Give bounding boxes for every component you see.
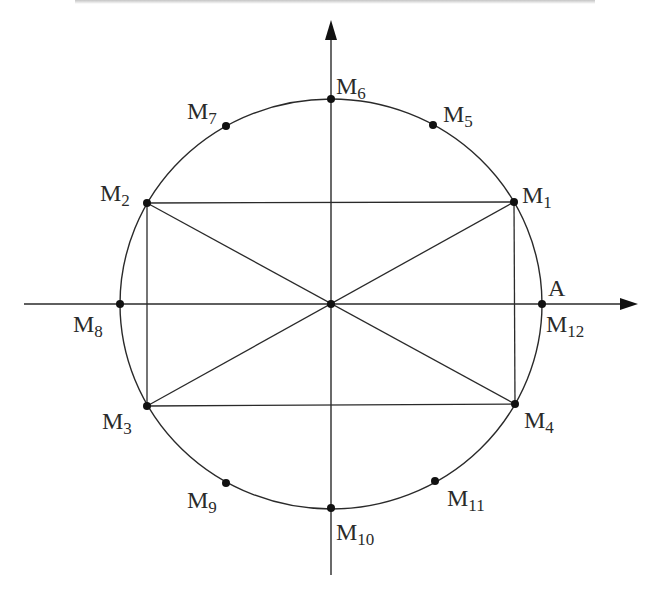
label-base: M [522,182,543,208]
label-m2: M2 [100,181,130,209]
label-base: M [187,487,208,513]
point-m9 [222,479,230,487]
segment-m1-m2 [147,202,514,203]
label-base: M [336,519,357,545]
point-m3 [143,402,151,410]
label-m8: M8 [73,312,103,340]
label-subscript: 10 [357,530,374,549]
label-subscript: 7 [208,109,217,128]
label-subscript: 4 [545,418,554,437]
label-subscript: 1 [543,193,552,212]
label-m3: M3 [102,409,132,437]
label-base: M [447,485,468,511]
label-subscript: 6 [357,84,366,103]
label-subscript: 11 [468,496,484,515]
label-base: M [546,311,567,337]
label-subscript: 12 [567,322,584,341]
label-base: M [524,407,545,433]
label-m5: M5 [443,102,473,130]
point-m2 [143,199,151,207]
point-m5 [429,121,437,129]
label-m6: M6 [336,74,366,102]
label-base: M [102,408,123,434]
label-m10: M10 [336,520,374,548]
y-axis-arrow-icon [325,20,337,40]
point-m4 [511,400,519,408]
label-a: A [548,276,565,300]
label-base: M [443,101,464,127]
point-m11 [431,477,439,485]
label-m9: M9 [187,488,217,516]
label-m11: M11 [447,486,485,514]
label-base: M [100,180,121,206]
label-subscript: 8 [94,322,103,341]
label-m4: M4 [524,408,554,436]
point-m1 [510,198,518,206]
unit-circle-diagram: M1M2M3M4M5M6M7M8M9M10M11M12A [0,0,648,590]
label-subscript: 5 [464,112,473,131]
axes [24,20,638,575]
label-base: M [73,311,94,337]
label-m12: M12 [546,312,584,340]
label-subscript: 2 [121,191,130,210]
label-m1: M1 [522,183,552,211]
label-base: M [187,98,208,124]
point-m8 [116,300,124,308]
x-axis-arrow-icon [620,298,638,310]
point-o [327,300,335,308]
label-subscript: 9 [208,498,217,517]
point-m10 [327,504,335,512]
point-m6 [327,95,335,103]
clipped-text-strip [75,0,595,4]
label-base: M [336,73,357,99]
point-m12 [538,300,546,308]
point-m7 [222,122,230,130]
label-m7: M7 [187,99,217,127]
segment-m4-m1 [514,202,515,404]
label-subscript: 3 [123,419,132,438]
label-base: A [548,275,565,301]
